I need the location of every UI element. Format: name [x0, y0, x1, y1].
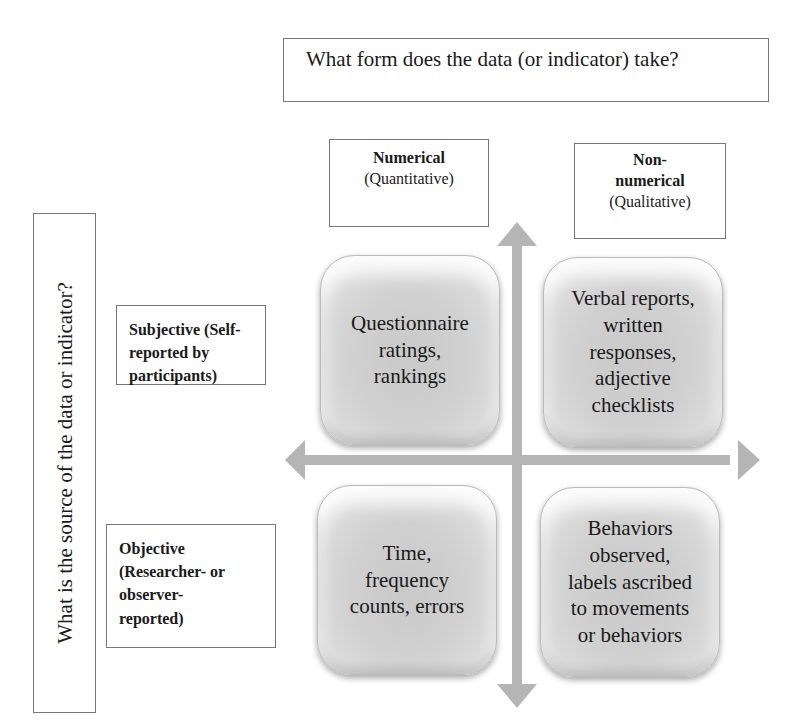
row-subjective-line-2: reported by — [129, 341, 255, 364]
quadrant-text-line: rankings — [351, 363, 469, 390]
row-objective-line-4: reported) — [119, 607, 265, 630]
quadrant-text-line: counts, errors — [350, 593, 464, 620]
quadrant-text-line: to movements — [568, 595, 692, 622]
column-header-numerical: Numerical (Quantitative) — [329, 139, 489, 227]
quadrant-text-line: ratings, — [351, 337, 469, 364]
row-objective-line-2: (Researcher- or — [119, 560, 265, 583]
quadrant-text-line: checklists — [571, 392, 695, 419]
quadrant-text-line: labels ascribed — [568, 569, 692, 596]
row-objective-line-1: Objective — [119, 537, 265, 560]
arrow-down-icon — [497, 684, 537, 708]
row-header-objective: Objective (Researcher- or observer- repo… — [106, 524, 276, 648]
quadrant-text-line: Behaviors — [568, 515, 692, 542]
quadrant-text-line: adjective — [571, 365, 695, 392]
column-numerical-line-1: Numerical — [364, 148, 454, 169]
quadrant-objective-non-numerical: Behaviors observed, labels ascribed to m… — [540, 487, 720, 677]
column-non-numerical-line-3: (Qualitative) — [609, 192, 691, 213]
column-numerical-line-2: (Quantitative) — [364, 169, 454, 190]
column-non-numerical-line-1: Non- — [609, 150, 691, 171]
form-question: What form does the data (or indicator) t… — [306, 47, 679, 72]
source-question-box: What is the source of the data or indica… — [33, 213, 96, 713]
quadrant-text-line: written — [571, 312, 695, 339]
row-subjective-line-3: participants) — [129, 364, 255, 387]
quadrant-text-line: Questionnaire — [351, 310, 469, 337]
quadrant-text-line: responses, — [571, 339, 695, 366]
form-question-box: What form does the data (or indicator) t… — [283, 38, 769, 102]
quadrant-text-line: Verbal reports, — [571, 285, 695, 312]
quadrant-text-line: Time, — [350, 540, 464, 567]
quadrant-text-line: observed, — [568, 542, 692, 569]
quadrant-text-line: or behaviors — [568, 622, 692, 649]
source-question: What is the source of the data or indica… — [52, 282, 77, 644]
column-header-non-numerical: Non- numerical (Qualitative) — [574, 143, 726, 239]
row-header-subjective: Subjective (Self- reported by participan… — [116, 305, 266, 385]
horizontal-axis-shaft — [305, 455, 730, 465]
quadrant-objective-numerical: Time, frequency counts, errors — [317, 485, 497, 675]
column-non-numerical-line-2: numerical — [609, 171, 691, 192]
quadrant-subjective-numerical: Questionnaire ratings, rankings — [320, 255, 500, 445]
quadrant-text-line: frequency — [350, 567, 464, 594]
quadrant-subjective-non-numerical: Verbal reports, written responses, adjec… — [543, 257, 723, 447]
row-subjective-line-1: Subjective (Self- — [129, 318, 255, 341]
arrow-left-icon — [285, 440, 305, 480]
arrow-right-icon — [738, 440, 760, 480]
arrow-up-icon — [497, 222, 537, 246]
row-objective-line-3: observer- — [119, 583, 265, 606]
